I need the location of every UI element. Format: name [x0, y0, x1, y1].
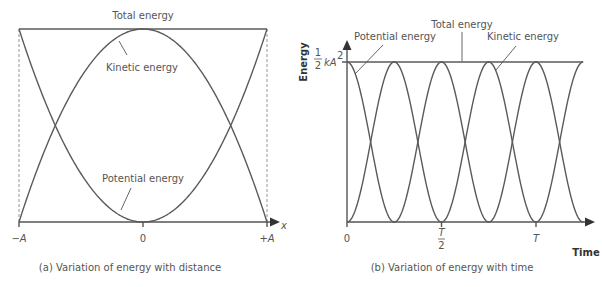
chart-a: −A 0 +A x Total energy Kinetic energy Po…	[11, 10, 287, 273]
ytick-rest-b: kA	[324, 57, 337, 68]
leader-kinetic-b	[496, 46, 516, 70]
y-axis-arrow-icon	[343, 40, 352, 50]
ytick-num-b: 1	[315, 47, 321, 58]
x-axis-arrow-icon-b	[585, 218, 595, 227]
label-potential-energy-b: Potential energy	[354, 31, 436, 42]
ytick-sup-b: 2	[337, 50, 343, 61]
leader-potential-a	[121, 188, 131, 210]
ytick-den-b: 2	[315, 60, 321, 71]
leader-potential-b	[355, 45, 383, 74]
tick-label-zero-a: 0	[140, 233, 146, 244]
x-axis-arrow-icon	[270, 218, 280, 227]
x-axis-label-b: Time	[572, 247, 600, 258]
y-axis-label-b: Energy	[298, 42, 309, 82]
tick-label-neg-a: −A	[11, 233, 26, 244]
kinetic-energy-curve-a	[19, 29, 267, 222]
tick-label-zero-b: 0	[344, 233, 350, 244]
tick-label-half-num-b: T	[438, 227, 445, 238]
potential-energy-curve-a	[19, 29, 267, 222]
caption-b: (b) Variation of energy with time	[371, 262, 534, 273]
label-total-energy-b: Total energy	[430, 19, 492, 30]
chart-b: Energy 1 2 kA 2 0 T 2 T Time Total energ…	[298, 19, 600, 273]
tick-label-period-b: T	[533, 233, 540, 244]
label-kinetic-energy-a: Kinetic energy	[106, 62, 178, 73]
label-potential-energy-a: Potential energy	[102, 173, 184, 184]
tick-label-pos-a: +A	[259, 233, 274, 244]
label-total-energy-a: Total energy	[111, 10, 173, 21]
tick-label-half-den-b: 2	[438, 240, 444, 251]
energy-figure: −A 0 +A x Total energy Kinetic energy Po…	[0, 0, 602, 287]
caption-a: (a) Variation of energy with distance	[39, 262, 221, 273]
leader-kinetic-a	[119, 41, 127, 55]
x-axis-label-a: x	[280, 220, 287, 231]
label-kinetic-energy-b: Kinetic energy	[487, 31, 559, 42]
